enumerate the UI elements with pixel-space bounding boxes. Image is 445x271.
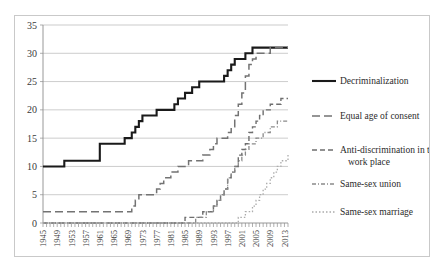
y-tick-label: 35 xyxy=(27,20,37,31)
series-line-equal-age-of-consent xyxy=(43,48,288,212)
legend-label: Anti-discrimination in the xyxy=(340,145,429,155)
series-line-decriminalization xyxy=(43,48,288,167)
legend-label: Decriminalization xyxy=(340,76,409,86)
y-tick-label: 10 xyxy=(27,161,37,172)
x-tick-label: 1997 xyxy=(223,230,233,247)
x-tick-label: 1993 xyxy=(209,230,219,247)
x-tick-label: 1953 xyxy=(67,230,77,247)
legend-label: Same-sex marriage xyxy=(340,207,413,217)
legend-label: Same-sex union xyxy=(340,179,401,189)
chart-legend: DecriminalizationEqual age of consentAnt… xyxy=(312,76,429,217)
x-tick-label: 1961 xyxy=(95,230,105,247)
axes xyxy=(43,25,288,223)
figure-frame: 05101520253035 1945194919531957196119651… xyxy=(14,15,430,257)
x-tick-label: 2009 xyxy=(265,230,275,247)
line-chart: 05101520253035 1945194919531957196119651… xyxy=(15,16,429,256)
y-tick-label: 5 xyxy=(32,189,37,200)
gridlines xyxy=(40,25,288,223)
x-tick-label: 1985 xyxy=(180,230,190,247)
y-tick-label: 25 xyxy=(27,76,37,87)
x-tick-label: 1949 xyxy=(52,230,62,247)
x-axis-tick-labels: 1945194919531957196119651969197319771981… xyxy=(38,230,289,247)
x-tick-label: 1945 xyxy=(38,230,48,247)
y-tick-label: 15 xyxy=(27,133,37,144)
x-tick-label: 2001 xyxy=(237,230,247,247)
x-tick-label: 1973 xyxy=(138,230,148,247)
legend-label: work place xyxy=(348,157,390,167)
x-tick-label: 2013 xyxy=(280,230,290,247)
y-axis-tick-labels: 05101520253035 xyxy=(27,20,37,229)
legend-label: Equal age of consent xyxy=(340,111,420,121)
x-tick-label: 1977 xyxy=(152,230,162,247)
series-line-same-sex-union xyxy=(43,121,288,223)
x-tick-label: 1957 xyxy=(81,230,91,247)
data-series xyxy=(43,48,288,223)
series-line-same-sex-marriage xyxy=(43,155,288,223)
y-tick-label: 20 xyxy=(27,104,37,115)
x-tick-label: 1969 xyxy=(123,230,133,247)
y-tick-label: 30 xyxy=(27,48,37,59)
x-tick-label: 1965 xyxy=(109,230,119,247)
x-tick-label: 1981 xyxy=(166,230,176,247)
x-tick-label: 1989 xyxy=(194,230,204,247)
y-tick-label: 0 xyxy=(32,218,37,229)
x-tick-label: 2005 xyxy=(251,230,261,247)
